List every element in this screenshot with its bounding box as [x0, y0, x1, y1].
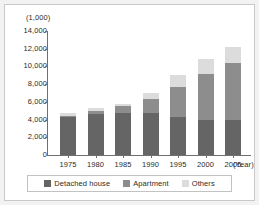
y-axis-tick-label: 10,000 — [23, 61, 47, 70]
chart-legend: Detached houseApartmentOthers — [27, 175, 232, 192]
x-axis-tick-mark — [151, 155, 152, 158]
chart-figure: (1,000) 02,0004,0006,0008,00010,00012,00… — [0, 0, 259, 205]
stacked-bar[interactable] — [170, 75, 186, 155]
legend-swatch-icon — [182, 180, 189, 187]
legend-label: Detached house — [54, 179, 110, 188]
stacked-bar[interactable] — [143, 93, 159, 155]
y-axis-tick-label: 14,000 — [23, 26, 47, 35]
stacked-bar[interactable] — [198, 59, 214, 155]
bar-segment-detached-house — [170, 117, 186, 155]
legend-item[interactable]: Apartment — [123, 179, 169, 188]
legend-label: Apartment — [133, 179, 169, 188]
bar-segment-apartment — [198, 74, 214, 119]
x-axis-tick-mark — [233, 155, 234, 158]
legend-item[interactable]: Others — [182, 179, 215, 188]
y-axis-tick-label: 0 — [43, 150, 47, 159]
y-axis-tick-label: 12,000 — [23, 44, 47, 53]
bar-segment-detached-house — [88, 114, 104, 155]
bar-segment-detached-house — [143, 113, 159, 155]
stacked-bar[interactable] — [60, 113, 76, 155]
bar-segment-apartment — [225, 63, 241, 120]
legend-swatch-icon — [123, 180, 130, 187]
legend-label: Others — [192, 179, 215, 188]
bar-segment-apartment — [170, 87, 186, 117]
bar-segment-detached-house — [225, 120, 241, 155]
bar-segment-detached-house — [198, 120, 214, 155]
bar-segment-others — [170, 75, 186, 87]
x-axis-tick-mark — [96, 155, 97, 158]
bar-series-container — [48, 27, 251, 155]
bar-segment-detached-house — [60, 117, 76, 155]
legend-item[interactable]: Detached house — [44, 179, 110, 188]
chart-panel: (1,000) 02,0004,0006,0008,00010,00012,00… — [4, 4, 255, 201]
x-axis-tick-mark — [178, 155, 179, 158]
stacked-bar[interactable] — [88, 108, 104, 155]
bar-segment-others — [198, 59, 214, 74]
x-axis-tick-mark — [68, 155, 69, 158]
plot-area: 02,0004,0006,0008,00010,00012,00014,000 … — [47, 27, 251, 159]
bar-segment-others — [225, 47, 241, 63]
x-axis-title: (Year) — [233, 160, 254, 169]
bar-segment-apartment — [115, 106, 131, 113]
x-axis-tick-mark — [123, 155, 124, 158]
bar-segment-detached-house — [115, 113, 131, 155]
stacked-bar[interactable] — [115, 104, 131, 155]
x-axis-line — [47, 155, 251, 156]
x-axis-tick-mark — [206, 155, 207, 158]
bar-segment-apartment — [143, 99, 159, 113]
y-axis-unit-label: (1,000) — [26, 13, 50, 22]
stacked-bar[interactable] — [225, 47, 241, 155]
legend-swatch-icon — [44, 180, 51, 187]
